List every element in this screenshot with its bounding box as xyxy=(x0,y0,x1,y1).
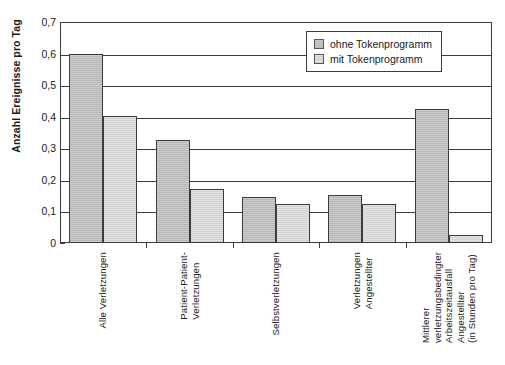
chart-legend: ohne Tokenprogramm mit Tokenprogramm xyxy=(306,31,442,72)
x-axis-category-label: Patient-Patient-Verletzungen xyxy=(178,252,201,320)
x-axis-label-line: verletzungsbedingter xyxy=(432,252,444,343)
bar xyxy=(69,54,103,243)
x-axis-category-label: VerletzungenAngestellter xyxy=(351,252,374,309)
y-tick-label: 0 xyxy=(16,237,56,249)
x-axis-category-label: Selbstverletzungen xyxy=(270,252,282,335)
x-axis-label-line: Verletzungen xyxy=(190,252,202,320)
x-axis-label-line: Selbstverletzungen xyxy=(270,252,282,335)
bar xyxy=(190,189,224,243)
y-tick-label: 0,6 xyxy=(16,48,56,60)
x-tick-mark xyxy=(233,243,234,248)
x-axis-label-line: Angestellter xyxy=(455,252,467,343)
y-tick-label: 0,5 xyxy=(16,79,56,91)
x-axis-label-line: Patient-Patient- xyxy=(178,252,190,320)
y-tick-label: 0,2 xyxy=(16,174,56,186)
x-axis-label-line: Verletzungen xyxy=(351,252,363,309)
x-axis-category-label: Alle Verletzungen xyxy=(97,252,109,328)
bar xyxy=(156,140,190,243)
legend-item-label: ohne Tokenprogramm xyxy=(330,38,432,50)
legend-item-ohne-tokenprogramm[interactable]: ohne Tokenprogramm xyxy=(314,36,432,51)
bar xyxy=(362,204,396,243)
y-tick-label: 0,7 xyxy=(16,16,56,28)
legend-swatch-icon xyxy=(314,54,324,64)
bar xyxy=(415,109,449,243)
x-axis-category-label: MittlererverletzungsbedingterArbeitszeit… xyxy=(420,252,478,343)
bar xyxy=(449,235,483,243)
legend-item-label: mit Tokenprogramm xyxy=(330,53,423,65)
y-axis-tick-labels: 00,10,20,30,40,50,60,7 xyxy=(12,22,56,243)
y-tick-label: 0,1 xyxy=(16,205,56,217)
y-tick-label: 0,4 xyxy=(16,111,56,123)
x-axis-label-line: (in Stunden pro Tag) xyxy=(466,252,478,343)
x-axis-label-line: Angestellter xyxy=(363,252,375,309)
y-tick-label: 0,3 xyxy=(16,142,56,154)
legend-swatch-icon xyxy=(314,39,324,49)
x-tick-mark xyxy=(146,243,147,248)
y-tick-mark xyxy=(60,243,65,244)
legend-item-mit-tokenprogramm[interactable]: mit Tokenprogramm xyxy=(314,51,432,66)
x-axis-label-line: Mittlerer xyxy=(420,252,432,343)
x-tick-mark xyxy=(406,243,407,248)
bar-chart: Anzahl Ereignisse pro Tag 00,10,20,30,40… xyxy=(0,0,505,365)
bar xyxy=(242,197,276,243)
x-axis-label-line: Arbeitszeitausfall xyxy=(443,252,455,343)
bar xyxy=(328,195,362,243)
x-axis-label-line: Alle Verletzungen xyxy=(97,252,109,328)
bar xyxy=(276,204,310,243)
bar xyxy=(103,116,137,243)
x-tick-mark xyxy=(319,243,320,248)
